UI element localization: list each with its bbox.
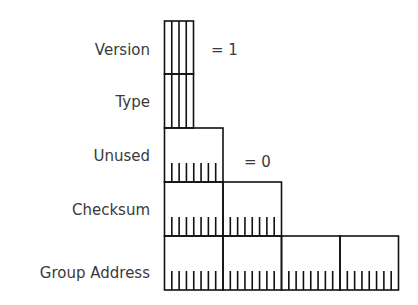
type-field-box [165,74,194,128]
version-field-box [165,21,194,74]
checksum-field-box [165,182,282,236]
packet-diagram [0,0,418,305]
group-address-field-box [165,236,399,290]
unused-field-box [165,128,224,182]
